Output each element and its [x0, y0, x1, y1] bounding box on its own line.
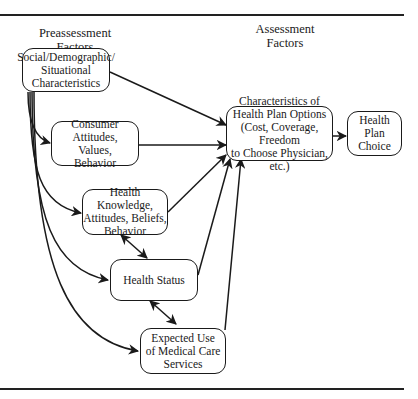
- node-characteristics-label: Characteristics of Health Plan Options (…: [227, 95, 332, 173]
- node-consumer: Consumer Attitudes, Values, Behavior: [51, 121, 139, 166]
- node-characteristics: Characteristics of Health Plan Options (…: [226, 106, 333, 161]
- node-choice: Health Plan Choice: [347, 111, 402, 156]
- node-expected-use: Expected Use of Medical Care Services: [140, 328, 226, 374]
- node-status-label: Health Status: [123, 274, 185, 287]
- edge-status-expected: [150, 301, 176, 324]
- node-knowledge-label: Health Knowledge, Attitudes, Beliefs, Be…: [83, 186, 167, 238]
- node-expected-use-label: Expected Use of Medical Care Services: [146, 332, 221, 371]
- node-knowledge: Health Knowledge, Attitudes, Beliefs, Be…: [82, 189, 168, 235]
- node-status: Health Status: [110, 259, 198, 301]
- node-social: Social/Demographic/ Situational Characte…: [22, 48, 110, 92]
- edge-status-characteristics: [198, 159, 230, 275]
- node-consumer-label: Consumer Attitudes, Values, Behavior: [52, 118, 138, 170]
- edge-knowledge-status: [121, 235, 147, 258]
- node-social-label: Social/Demographic/ Situational Characte…: [17, 51, 115, 90]
- edge-expected-characteristics: [225, 159, 241, 330]
- node-choice-label: Health Plan Choice: [348, 114, 401, 153]
